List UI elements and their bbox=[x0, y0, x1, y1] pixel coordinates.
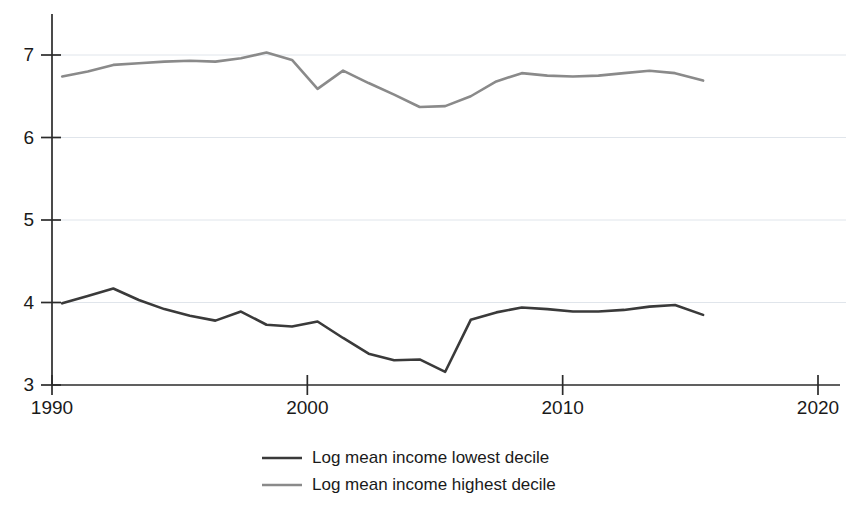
legend-item-highest-decile: Log mean income highest decile bbox=[262, 475, 556, 494]
legend-label-lowest-decile: Log mean income lowest decile bbox=[312, 448, 549, 467]
x-tick-label-2000: 2000 bbox=[286, 397, 328, 418]
y-tick-label-5: 5 bbox=[23, 209, 34, 230]
y-tick-label-4: 4 bbox=[23, 292, 34, 313]
legend-item-lowest-decile: Log mean income lowest decile bbox=[262, 448, 549, 467]
chart-legend: Log mean income lowest decileLog mean in… bbox=[262, 448, 556, 494]
legend-label-highest-decile: Log mean income highest decile bbox=[312, 475, 556, 494]
x-tick-label-2020: 2020 bbox=[797, 397, 839, 418]
y-tick-label-6: 6 bbox=[23, 127, 34, 148]
gridlines bbox=[52, 55, 846, 303]
data-series-group bbox=[62, 53, 703, 372]
x-tick-label-2010: 2010 bbox=[542, 397, 584, 418]
x-axis-ticks: 1990200020102020 bbox=[31, 375, 839, 418]
x-tick-label-1990: 1990 bbox=[31, 397, 73, 418]
series-line-highest-decile bbox=[62, 53, 703, 107]
line-chart: 34567 1990200020102020 Log mean income l… bbox=[0, 0, 858, 512]
y-tick-label-7: 7 bbox=[23, 44, 34, 65]
y-axis-ticks: 34567 bbox=[23, 44, 61, 395]
series-line-lowest-decile bbox=[62, 288, 703, 371]
y-tick-label-3: 3 bbox=[23, 374, 34, 395]
chart-container: 34567 1990200020102020 Log mean income l… bbox=[0, 0, 858, 512]
axes bbox=[52, 14, 840, 385]
